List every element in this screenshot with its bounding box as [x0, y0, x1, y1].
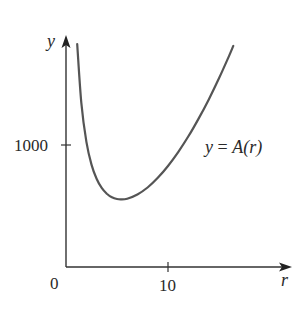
- curve-label-y: y: [205, 137, 213, 157]
- y-axis: [62, 35, 71, 267]
- y-axis-label: y: [47, 32, 55, 50]
- x-axis-label: r: [281, 271, 288, 289]
- chart-canvas: [0, 0, 305, 320]
- curve-label-function: A(r): [232, 137, 262, 157]
- curve-A-of-r: [77, 44, 233, 199]
- x-axis: [66, 263, 292, 272]
- y-tick-label-1000: 1000: [14, 137, 48, 154]
- curve-label-equals: =: [213, 137, 232, 157]
- curve-label: y = A(r): [205, 138, 262, 156]
- origin-label: 0: [50, 275, 59, 292]
- x-tick-label-10: 10: [159, 277, 176, 294]
